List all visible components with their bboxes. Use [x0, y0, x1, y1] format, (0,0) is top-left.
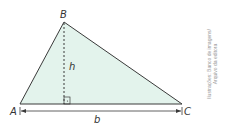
vertex-label-c: C: [184, 106, 191, 117]
image-credit: Ilustrações: Banco de imagens/ Arquivo d…: [206, 29, 218, 99]
right-angle-dot: [67, 100, 68, 101]
credit-line-2: Arquivo da editora: [212, 29, 218, 99]
arrowhead-left-icon: [21, 109, 26, 113]
triangle-abc: [20, 22, 182, 104]
vertex-label-a: A: [9, 106, 17, 117]
vertex-label-b: B: [60, 9, 67, 20]
height-label: h: [69, 61, 75, 72]
arrowhead-right-icon: [176, 109, 181, 113]
base-label: b: [94, 114, 100, 125]
